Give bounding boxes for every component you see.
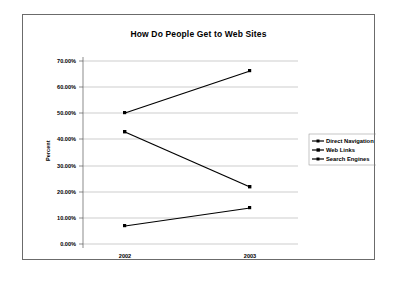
- data-point-marker: [248, 185, 251, 188]
- y-tick-label: 10.00%: [57, 215, 76, 221]
- legend-label: Web Links: [326, 147, 355, 153]
- legend-label: Search Engines: [326, 156, 370, 162]
- legend-marker-icon: [317, 158, 320, 161]
- legend-marker-icon: [317, 140, 320, 143]
- legend-entry-direct-navigation[interactable]: Direct Navigation: [312, 138, 374, 144]
- x-tick-label: 2002: [119, 253, 131, 259]
- data-point-marker: [123, 130, 126, 133]
- legend-label: Direct Navigation: [326, 138, 374, 144]
- line-chart: 70.00% 60.00% 50.00% 40.00% 30.00% 20.00…: [23, 15, 376, 261]
- chart-legend: Direct Navigation Web Links Search Engin…: [309, 134, 376, 165]
- data-point-marker: [123, 111, 126, 114]
- series-search-engines: [123, 206, 251, 227]
- y-tick-label: 70.00%: [57, 58, 76, 64]
- y-tick-label: 40.00%: [57, 136, 76, 142]
- chart-frame: How Do People Get to Web Sites: [22, 14, 375, 260]
- legend-entry-web-links[interactable]: Web Links: [312, 147, 355, 153]
- legend-entry-search-engines[interactable]: Search Engines: [312, 156, 370, 162]
- legend-marker-icon: [317, 148, 320, 151]
- y-tick-label: 50.00%: [57, 110, 76, 116]
- y-tick-label: 20.00%: [57, 189, 76, 195]
- x-tick-label: 2003: [244, 253, 256, 259]
- y-tick-marks: [79, 61, 83, 244]
- series-direct-navigation: [123, 69, 251, 114]
- data-point-marker: [123, 224, 126, 227]
- y-tick-label: 60.00%: [57, 84, 76, 90]
- data-point-marker: [248, 206, 251, 209]
- x-axis-tick-labels: 2002 2003: [119, 253, 256, 259]
- y-axis-tick-labels: 70.00% 60.00% 50.00% 40.00% 30.00% 20.00…: [57, 58, 76, 247]
- data-point-marker: [248, 69, 251, 72]
- y-tick-label: 0.00%: [60, 241, 76, 247]
- y-tick-label: 30.00%: [57, 163, 76, 169]
- y-axis-title: Percent: [45, 140, 51, 161]
